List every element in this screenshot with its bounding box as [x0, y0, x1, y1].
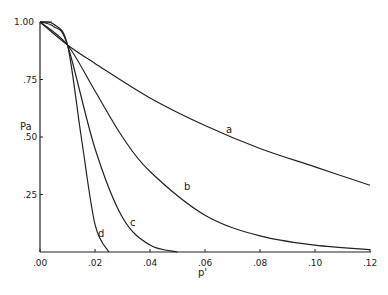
curve-a — [40, 22, 370, 185]
y-tick-label: .75 — [23, 75, 37, 85]
x-tick-label: .08 — [253, 258, 268, 268]
y-axis-ticks: .25.50.751.00 — [14, 17, 43, 200]
curve-b — [40, 22, 370, 250]
y-tick-label: .50 — [23, 132, 38, 142]
curve-label-b: b — [184, 181, 190, 192]
y-axis-label: Pa — [20, 121, 32, 132]
y-tick-label: .25 — [23, 190, 37, 200]
curves — [40, 22, 370, 252]
x-axis-label: p' — [198, 267, 207, 278]
x-tick-label: .10 — [308, 258, 323, 268]
x-tick-label: .02 — [88, 258, 102, 268]
curve-label-a: a — [226, 124, 232, 135]
curve-d — [40, 22, 109, 252]
y-tick-label: 1.00 — [14, 17, 34, 27]
curve-label-d: d — [98, 228, 104, 239]
x-tick-label: .04 — [143, 258, 158, 268]
axes — [40, 22, 371, 252]
x-tick-label: .12 — [363, 258, 377, 268]
curve-label-c: c — [130, 217, 136, 228]
oc-curve-chart: .00.02.04.06.08.10.12 .25.50.751.00 Pa p… — [0, 0, 388, 295]
x-tick-label: .00 — [33, 258, 48, 268]
curve-c — [40, 22, 178, 252]
